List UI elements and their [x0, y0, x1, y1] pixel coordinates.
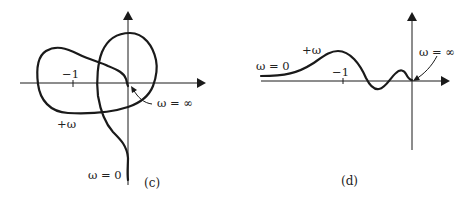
imag-axis-arrow-icon — [407, 12, 417, 21]
caption-d: (d) — [341, 174, 358, 188]
caption-c: (c) — [144, 176, 160, 190]
panel-c: −1 +ω ω = ∞ ω = 0 (c) — [20, 11, 206, 190]
omega-inf-label: ω = ∞ — [419, 45, 455, 59]
omega-inf-pointer-arrow-icon — [131, 86, 137, 93]
omega-inf-pointer — [416, 56, 437, 79]
real-axis-arrow-icon — [197, 78, 206, 88]
omega-inf-label: ω = ∞ — [157, 96, 193, 110]
real-axis-arrow-icon — [441, 76, 450, 86]
minus-one-label: −1 — [332, 65, 349, 79]
omega-zero-label: ω = 0 — [256, 59, 290, 73]
omega-zero-label: ω = 0 — [88, 168, 122, 182]
minus-one-label: −1 — [62, 67, 79, 81]
imag-axis-arrow-icon — [123, 11, 133, 20]
plus-omega-label: +ω — [57, 117, 76, 131]
plus-omega-label: +ω — [302, 43, 321, 57]
nyquist-diagrams: −1 +ω ω = ∞ ω = 0 (c) −1 +ω ω = ∞ ω = 0 … — [0, 0, 472, 199]
omega-inf-pointer-arrow-icon — [413, 75, 420, 81]
nyquist-curve — [37, 33, 157, 180]
panel-d: −1 +ω ω = ∞ ω = 0 (d) — [256, 12, 455, 188]
